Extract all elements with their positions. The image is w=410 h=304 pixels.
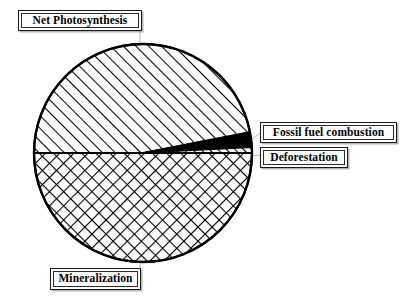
slice-label-text: Fossil fuel combustion bbox=[268, 127, 389, 139]
slice-label-net-photosynthesis[interactable]: Net Photosynthesis bbox=[18, 10, 142, 31]
slice-label-text: Net Photosynthesis bbox=[28, 15, 133, 27]
pie-chart-figure: Net Photosynthesis Fossil fuel combustio… bbox=[0, 0, 410, 304]
pie-slice-net-photosynthesis[interactable] bbox=[34, 44, 250, 153]
slice-label-mineralization[interactable]: Mineralization bbox=[50, 268, 141, 290]
slice-label-deforestation[interactable]: Deforestation bbox=[260, 147, 348, 168]
pie-slice-mineralization[interactable] bbox=[34, 153, 252, 262]
slice-label-text: Deforestation bbox=[265, 152, 343, 164]
slice-label-text: Mineralization bbox=[53, 273, 137, 285]
slice-label-fossil-fuel-combustion[interactable]: Fossil fuel combustion bbox=[260, 122, 397, 143]
pie-chart-canvas bbox=[0, 0, 410, 304]
